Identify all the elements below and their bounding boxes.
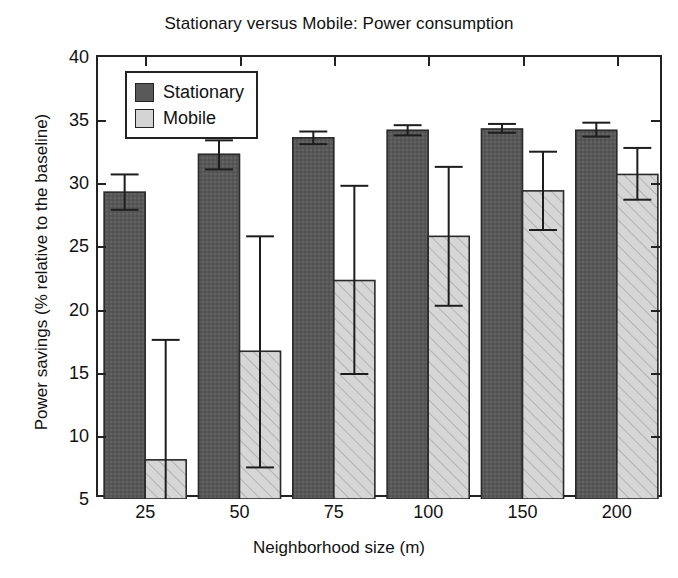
x-tick-label-150: 150 [507, 503, 537, 521]
y-tick-mark-right-10 [651, 436, 660, 438]
y-tick-label-10: 10 [69, 427, 89, 445]
y-tick-label-30: 30 [69, 174, 89, 192]
y-tick-label-15: 15 [69, 364, 89, 382]
y-tick-mark-15 [98, 373, 106, 375]
y-tick-label-5: 5 [79, 490, 89, 508]
x-tick-mark-top-150 [523, 57, 525, 66]
x-tick-mark-top-75 [334, 57, 336, 66]
x-tick-label-25: 25 [135, 503, 155, 521]
legend-label-mobile: Mobile [163, 109, 216, 127]
bar-stationary-150 [481, 129, 522, 499]
bar-stationary-50 [198, 154, 239, 499]
y-tick-label-20: 20 [69, 301, 89, 319]
bar-mobile-200 [617, 174, 658, 499]
y-tick-mark-30 [98, 183, 106, 185]
y-tick-mark-right-35 [651, 120, 660, 122]
x-tick-label-75: 75 [324, 503, 344, 521]
x-tick-mark-top-50 [240, 57, 242, 66]
error-bars-layer [111, 123, 652, 499]
legend-swatch-stationary-icon [135, 83, 154, 102]
legend-item-mobile: Mobile [135, 105, 244, 131]
y-tick-mark-right-30 [651, 183, 660, 185]
y-tick-label-25: 25 [69, 237, 89, 255]
legend-label-stationary: Stationary [163, 83, 244, 101]
x-tick-label-100: 100 [413, 503, 443, 521]
bar-stationary-75 [293, 138, 334, 499]
y-tick-mark-20 [98, 310, 106, 312]
x-tick-label-200: 200 [602, 503, 632, 521]
x-tick-label-50: 50 [229, 503, 249, 521]
y-tick-mark-right-20 [651, 310, 660, 312]
chart-figure: Stationary versus Mobile: Power consumpt… [0, 0, 678, 578]
chart-title: Stationary versus Mobile: Power consumpt… [0, 14, 678, 34]
y-tick-mark-35 [98, 120, 106, 122]
bar-stationary-100 [387, 130, 428, 499]
x-tick-mark-top-200 [617, 57, 619, 66]
y-axis-label: Power savings (% relative to the baselin… [32, 62, 52, 482]
y-tick-mark-25 [98, 246, 106, 248]
y-tick-mark-10 [98, 436, 106, 438]
x-axis-label: Neighborhood size (m) [0, 538, 678, 558]
chart-legend: Stationary Mobile [125, 71, 258, 139]
legend-item-stationary: Stationary [135, 79, 244, 105]
bar-stationary-25 [104, 192, 145, 499]
bar-mobile-150 [523, 191, 564, 499]
x-tick-mark-top-100 [428, 57, 430, 66]
bars-layer [104, 129, 658, 499]
x-tick-mark-top-25 [145, 57, 147, 66]
legend-swatch-mobile-icon [135, 109, 154, 128]
y-tick-mark-right-15 [651, 373, 660, 375]
plot-area: 510152025303540 255075100150200 Stationa… [96, 55, 662, 497]
y-tick-label-40: 40 [69, 48, 89, 66]
y-tick-mark-right-25 [651, 246, 660, 248]
bar-stationary-200 [576, 130, 617, 499]
y-tick-label-35: 35 [69, 111, 89, 129]
